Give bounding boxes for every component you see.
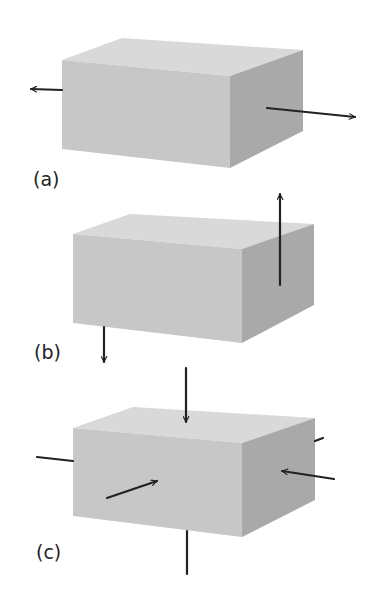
panel-c (37, 368, 334, 574)
panel-b (73, 194, 314, 362)
block-front-face (62, 60, 230, 168)
panel-label-a: (a) (33, 170, 59, 189)
panel-label-b: (b) (34, 343, 61, 362)
block-front-face (73, 234, 242, 343)
panel-label-c: (c) (36, 543, 61, 562)
stress-diagram (0, 0, 381, 607)
force-arrow-icon (31, 89, 62, 90)
block-front-face (73, 428, 242, 537)
force-line (315, 438, 323, 441)
panel-a (31, 38, 355, 168)
force-line (37, 457, 73, 461)
